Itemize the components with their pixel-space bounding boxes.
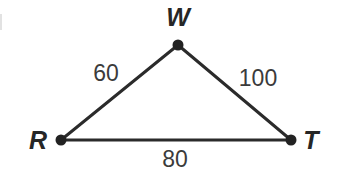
triangle-vertices bbox=[56, 40, 297, 146]
vertex-label-r: R bbox=[29, 128, 47, 153]
vertex-point-w bbox=[173, 40, 184, 51]
edge-r-w bbox=[61, 45, 178, 140]
triangle-diagram-canvas: W R T 60 100 80 bbox=[0, 0, 340, 173]
side-length-label-rt: 80 bbox=[162, 148, 188, 171]
vertex-label-w: W bbox=[166, 5, 190, 30]
edge-w-t bbox=[178, 45, 291, 140]
vertex-label-t: T bbox=[303, 128, 318, 153]
side-length-label-rw: 60 bbox=[93, 62, 119, 85]
side-length-label-wt: 100 bbox=[239, 67, 277, 90]
vertex-point-t bbox=[286, 135, 297, 146]
vertex-point-r bbox=[56, 135, 67, 146]
